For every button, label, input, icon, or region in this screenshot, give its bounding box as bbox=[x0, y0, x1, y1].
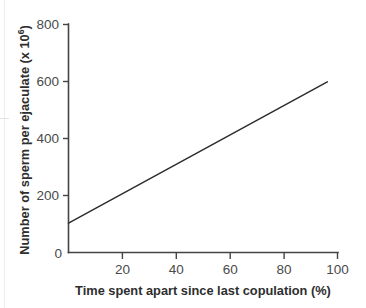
y-tick-label-0: 0 bbox=[54, 246, 62, 261]
x-tick-label-100: 100 bbox=[326, 262, 349, 277]
x-tick-label-60: 60 bbox=[223, 262, 238, 277]
x-tick-label-40: 40 bbox=[169, 262, 184, 277]
y-tick-label-200: 200 bbox=[36, 188, 59, 203]
y-axis-title-main: Number of sperm per ejaculate (x 10 bbox=[17, 34, 32, 254]
line-chart: 800 600 400 200 0 20 40 60 80 100 Time s… bbox=[0, 0, 366, 308]
left-edge-artifact-secondary bbox=[0, 118, 9, 119]
x-axis-title: Time spent apart since last copulation (… bbox=[75, 283, 331, 298]
y-axis-tick-labels: 800 600 400 200 0 bbox=[36, 17, 62, 261]
data-series-line bbox=[69, 82, 328, 223]
x-axis-ticks bbox=[122, 253, 337, 260]
y-axis-title: Number of sperm per ejaculate (x 106) bbox=[16, 25, 32, 254]
y-tick-label-800: 800 bbox=[36, 17, 59, 32]
x-tick-label-20: 20 bbox=[115, 262, 130, 277]
x-tick-label-80: 80 bbox=[277, 262, 292, 277]
x-axis-tick-labels: 20 40 60 80 100 bbox=[115, 262, 349, 277]
y-tick-label-600: 600 bbox=[36, 74, 59, 89]
y-axis-title-tail: ) bbox=[17, 25, 32, 29]
y-tick-label-400: 400 bbox=[36, 131, 59, 146]
left-edge-artifact bbox=[4, 0, 5, 308]
y-axis-ticks bbox=[63, 25, 69, 196]
chart-figure: 800 600 400 200 0 20 40 60 80 100 Time s… bbox=[0, 0, 366, 308]
